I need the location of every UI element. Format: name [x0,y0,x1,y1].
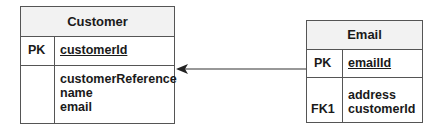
relationship-arrow [0,0,441,131]
